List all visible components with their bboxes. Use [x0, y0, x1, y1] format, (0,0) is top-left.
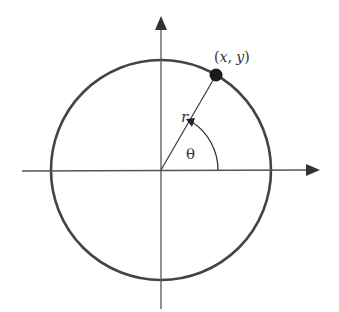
radius-label: r	[181, 108, 189, 126]
angle-label: θ	[186, 145, 195, 163]
point-marker	[210, 69, 223, 82]
x-axis	[22, 170, 308, 171]
polar-diagram: (x, y) r θ	[0, 0, 339, 312]
x-axis-arrow-icon	[306, 164, 320, 176]
angle-arc	[192, 122, 218, 170]
y-axis-arrow-icon	[155, 16, 167, 30]
point-label: (x, y)	[214, 49, 250, 65]
